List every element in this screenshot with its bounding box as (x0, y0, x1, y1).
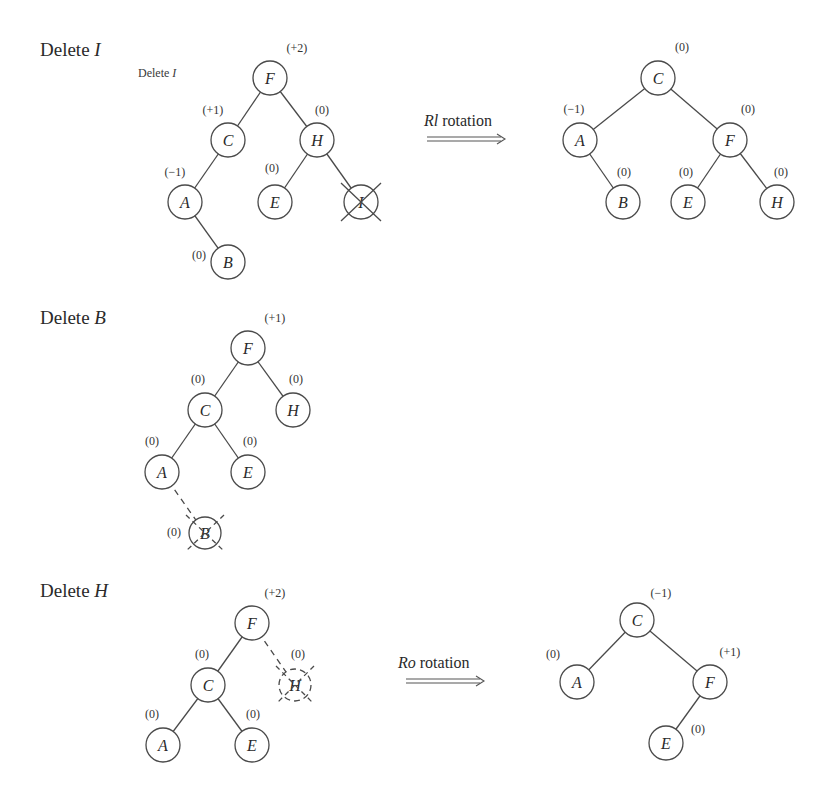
balance-factor: (+2) (265, 586, 286, 600)
balance-factor: (0) (546, 647, 560, 661)
tree-node-c: C (0) (188, 372, 222, 427)
balance-factor: (0) (291, 647, 305, 661)
balance-factor: (0) (191, 372, 205, 386)
svg-text:C: C (653, 70, 664, 87)
tree-node-a: A (−1) (165, 165, 202, 219)
balance-factor: (0) (195, 647, 209, 661)
balance-factor: (0) (145, 434, 159, 448)
section-delete-b: Delete B F (+1) C (0) H (0) (40, 307, 310, 551)
section-title: Delete H (40, 580, 109, 601)
tree-node-e: E (0) (231, 434, 265, 489)
tree-node-h: H (0) (300, 103, 334, 157)
balance-factor: (−1) (165, 165, 186, 179)
balance-factor: (0) (167, 525, 181, 539)
section-delete-h: Delete H F (+2) C (0) H (0) (40, 580, 740, 762)
balance-factor: (0) (265, 161, 279, 175)
svg-text:E: E (242, 464, 253, 481)
rotation-arrow-rl: Rl rotation (423, 112, 505, 144)
svg-text:F: F (242, 340, 253, 357)
double-arrow-icon (406, 676, 484, 686)
svg-text:E: E (269, 194, 280, 211)
balance-factor: (+2) (287, 41, 308, 55)
balance-factor: (0) (243, 434, 257, 448)
svg-text:C: C (223, 132, 234, 149)
balance-factor: (0) (192, 248, 206, 262)
tree-node-c: C (−1) (620, 586, 671, 637)
rotation-arrow-ro: Ro rotation (397, 654, 484, 686)
tree-node-f: F (+1) (231, 311, 285, 365)
svg-text:E: E (682, 194, 693, 211)
balance-factor: (0) (774, 165, 788, 179)
tree-node-c: C (+1) (203, 103, 245, 157)
double-arrow-icon (427, 134, 505, 144)
balance-factor: (+1) (203, 103, 224, 117)
svg-text:C: C (200, 402, 211, 419)
tree-after-rl-rotation: C (0) A (−1) F (0) B (0) E (0) (563, 40, 794, 219)
tree-node-c: C (0) (191, 647, 225, 702)
tree-node-f: F (+1) (693, 645, 740, 699)
svg-text:B: B (200, 525, 210, 542)
balance-factor: (−1) (564, 102, 585, 116)
tree-before-delete-b: F (+1) C (0) H (0) A (0) E (0) (145, 311, 310, 551)
tree-node-e: E (0) (235, 707, 269, 762)
svg-text:C: C (632, 612, 643, 629)
svg-text:A: A (156, 464, 167, 481)
tree-node-e: E (0) (258, 161, 292, 219)
svg-text:A: A (574, 132, 585, 149)
tree-node-b: B (0) (192, 245, 245, 279)
svg-text:F: F (264, 70, 275, 87)
tree-before-delete-h: F (+2) C (0) H (0) A (0) E (145, 586, 314, 762)
svg-text:A: A (157, 737, 168, 754)
svg-text:C: C (203, 677, 214, 694)
balance-factor: (0) (145, 707, 159, 721)
balance-factor: (0) (741, 102, 755, 116)
tree-node-a: A (−1) (563, 102, 597, 157)
svg-text:H: H (310, 132, 324, 149)
tree-node-f: F (+2) (235, 586, 285, 640)
balance-factor: (0) (617, 165, 631, 179)
rotation-label: Rl rotation (423, 112, 492, 129)
rotation-label: Ro rotation (397, 654, 470, 671)
balance-factor: (+1) (720, 645, 741, 659)
tree-node-a: A (0) (546, 647, 594, 699)
tree-node-b: B (0) (606, 165, 640, 219)
balance-factor: (+1) (265, 311, 286, 325)
svg-text:H: H (286, 402, 300, 419)
svg-text:F: F (704, 674, 715, 691)
balance-factor: (0) (246, 707, 260, 721)
tree-node-i-deleted: I (341, 183, 381, 221)
svg-text:E: E (246, 737, 257, 754)
balance-factor: (−1) (651, 586, 672, 600)
balance-factor: (0) (289, 372, 303, 386)
section-title: Delete B (40, 307, 106, 328)
tree-node-f: F (0) (713, 102, 755, 157)
tree-node-b-deleted: B (0) (167, 515, 224, 551)
svg-text:A: A (571, 674, 582, 691)
svg-text:H: H (770, 194, 784, 211)
tree-before-delete-i: F (+2) C (+1) H (0) A (−1) E (0) (165, 41, 381, 279)
balance-factor: (0) (315, 103, 329, 117)
svg-text:A: A (179, 194, 190, 211)
tree-node-f: F (+2) (253, 41, 307, 95)
svg-text:B: B (618, 194, 628, 211)
section-delete-i: Delete I Delete I F (+2) C (+1) H (40, 39, 794, 279)
section-subtitle: Delete I (138, 66, 177, 80)
svg-text:F: F (246, 615, 257, 632)
section-title: Delete I (40, 39, 102, 60)
tree-node-c: C (0) (641, 40, 689, 95)
tree-node-a: A (0) (145, 434, 179, 489)
tree-node-h: H (0) (760, 165, 794, 219)
svg-text:F: F (724, 132, 735, 149)
balance-factor: (0) (691, 722, 705, 736)
tree-after-ro-rotation: C (−1) A (0) F (+1) E (0) (546, 586, 740, 760)
balance-factor: (0) (679, 165, 693, 179)
tree-node-h: H (0) (276, 372, 310, 427)
svg-text:E: E (660, 735, 671, 752)
tree-node-e: E (0) (671, 165, 705, 219)
tree-node-a: A (0) (145, 707, 180, 762)
balance-factor: (0) (675, 40, 689, 54)
svg-text:B: B (223, 254, 233, 271)
tree-node-h-deleted: H (0) (276, 647, 314, 704)
